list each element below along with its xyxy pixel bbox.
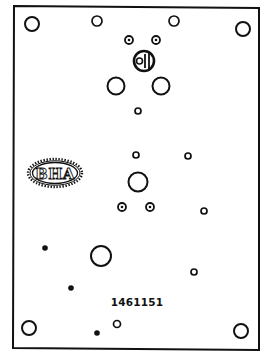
logo-text: BHA: [35, 165, 75, 183]
hole-mid-small-left-icon: [133, 152, 139, 158]
hole-top-left-inner-icon: [92, 16, 102, 26]
hole-upper-right-large-icon: [153, 78, 170, 95]
hole-corner-bottom-left-icon: [22, 321, 36, 335]
hole-mid-small-right-icon: [185, 153, 191, 159]
hole-lower-small-right-icon: [191, 269, 197, 275]
hole-upper-small-icon: [135, 108, 141, 114]
hole-mid-small-far-right-icon: [201, 208, 207, 214]
plate-drawing: BHA 1461151: [0, 0, 268, 360]
ring-hole-upper-ring-right-icon: [152, 36, 160, 44]
ring-hole-mid-ring-right-icon: [146, 203, 154, 211]
solid-dot-mid-left-icon: [68, 285, 74, 291]
bha-logo: BHA: [28, 159, 82, 187]
hole-corner-top-right-icon: [236, 22, 250, 36]
hole-upper-left-large-icon: [108, 78, 125, 95]
part-number-label: 1461151: [111, 296, 164, 308]
ring-hole-upper-ring-left-icon: [125, 36, 133, 44]
slotted-connector-icon: [134, 51, 154, 71]
hole-corner-top-left-icon: [25, 17, 39, 31]
solid-dot-upper-left-icon: [42, 245, 48, 251]
hole-corner-bottom-right-icon: [234, 324, 248, 338]
hole-lower-small-center-icon: [114, 321, 121, 328]
ring-hole-mid-ring-left-icon: [118, 203, 126, 211]
hole-top-right-inner-icon: [169, 16, 179, 26]
hole-lower-large-icon: [91, 246, 111, 266]
solid-dot-bottom-icon: [94, 330, 100, 336]
hole-mid-large-icon: [129, 173, 148, 192]
